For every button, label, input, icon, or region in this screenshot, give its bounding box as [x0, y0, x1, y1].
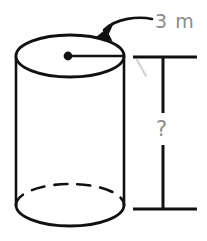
leader-arrowhead-icon: [96, 25, 112, 40]
cylinder-bottom-hidden-arc: [16, 184, 124, 205]
cylinder-diagram: 3 m ?: [0, 0, 207, 241]
cylinder-drawing: [0, 0, 207, 241]
height-label: ?: [156, 119, 167, 140]
radius-label: 3 m: [155, 12, 195, 31]
cylinder-bottom-front-arc: [16, 205, 124, 226]
center-point-dot: [64, 52, 73, 61]
light-artifact-stroke: [137, 60, 146, 76]
